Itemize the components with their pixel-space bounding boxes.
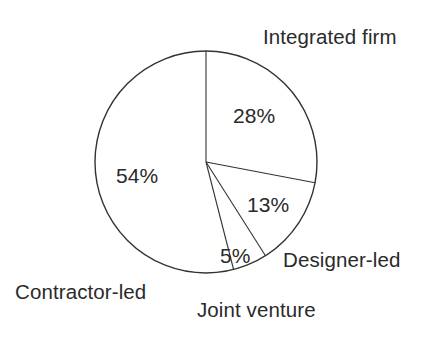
value-label-contractor-led: 54%: [116, 165, 158, 186]
category-label-joint-venture: Joint venture: [197, 300, 316, 321]
category-label-designer-led: Designer-led: [283, 250, 400, 271]
value-label-integrated-firm: 28%: [233, 105, 275, 126]
value-label-designer-led: 13%: [247, 194, 289, 215]
category-label-contractor-led: Contractor-led: [15, 282, 146, 303]
pie-chart: Integrated firm Designer-led Joint ventu…: [0, 0, 439, 340]
value-label-joint-venture: 5%: [220, 245, 251, 266]
category-label-integrated-firm: Integrated firm: [263, 27, 397, 48]
